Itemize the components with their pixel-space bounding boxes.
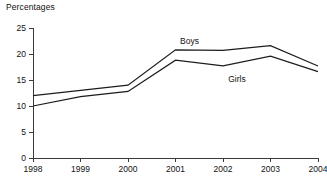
y-tick-label: 15 bbox=[17, 75, 27, 85]
x-tick-label: 1998 bbox=[24, 164, 43, 174]
y-tick-label: 5 bbox=[21, 127, 26, 137]
series-line-boys bbox=[33, 46, 318, 96]
x-axis: 1998199920002001200220032004 bbox=[24, 158, 327, 174]
y-tick-label: 20 bbox=[17, 49, 27, 59]
x-tick-label: 1999 bbox=[71, 164, 90, 174]
y-tick-label: 10 bbox=[17, 101, 27, 111]
x-tick-label: 2003 bbox=[261, 164, 280, 174]
y-tick-label: 25 bbox=[17, 23, 27, 33]
chart-container: Percentages 0510152025 19981999200020012… bbox=[0, 0, 327, 178]
series-annotation-group: BoysGirls bbox=[180, 36, 246, 84]
x-tick-label: 2000 bbox=[119, 164, 138, 174]
series-group bbox=[33, 46, 318, 106]
line-chart-plot: 0510152025 1998199920002001200220032004 … bbox=[0, 0, 327, 178]
series-annotation-girls: Girls bbox=[228, 74, 245, 84]
series-annotation-boys: Boys bbox=[180, 36, 199, 46]
series-line-girls bbox=[33, 56, 318, 106]
y-tick-label: 0 bbox=[21, 153, 26, 163]
x-tick-label: 2004 bbox=[309, 164, 327, 174]
x-tick-label: 2002 bbox=[214, 164, 233, 174]
y-axis: 0510152025 bbox=[17, 23, 33, 163]
x-tick-label: 2001 bbox=[166, 164, 185, 174]
